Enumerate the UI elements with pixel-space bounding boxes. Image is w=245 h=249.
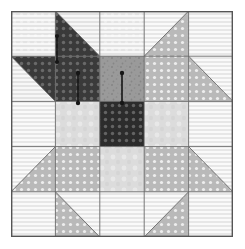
cell-r3c0 bbox=[11, 147, 55, 192]
quilt-row-4 bbox=[11, 192, 233, 237]
quilt-block-svg bbox=[11, 11, 233, 237]
cell-r2c1 bbox=[55, 101, 99, 146]
cell-r4c2 bbox=[100, 192, 144, 237]
cell-r4c3 bbox=[144, 192, 188, 237]
cell-r0c2 bbox=[100, 11, 144, 56]
cell-r4c4 bbox=[189, 192, 233, 237]
quilt-row-2 bbox=[11, 101, 233, 146]
cell-r0c4 bbox=[189, 11, 233, 56]
cell-r2c0 bbox=[11, 101, 55, 146]
cell-r2c4 bbox=[189, 101, 233, 146]
cell-r2c2 bbox=[100, 101, 144, 146]
cell-r2c3 bbox=[144, 101, 188, 146]
cell-r0c1 bbox=[55, 11, 99, 56]
cell-r3c2 bbox=[100, 147, 144, 192]
quilt-diagram-stage bbox=[0, 0, 245, 249]
cell-r1c4 bbox=[189, 56, 233, 101]
cell-r4c0 bbox=[11, 192, 55, 237]
quilt-row-3 bbox=[11, 147, 233, 192]
cell-r1c3 bbox=[144, 56, 188, 101]
cell-r3c4 bbox=[189, 147, 233, 192]
cell-r4c1 bbox=[55, 192, 99, 237]
cell-r0c3 bbox=[144, 11, 188, 56]
cell-r3c3 bbox=[144, 147, 188, 192]
cell-r0c0 bbox=[11, 11, 55, 56]
cell-r3c1 bbox=[55, 147, 99, 192]
cell-r1c0 bbox=[11, 56, 55, 101]
quilt-row-0 bbox=[11, 11, 233, 56]
quilt-block bbox=[11, 11, 233, 237]
